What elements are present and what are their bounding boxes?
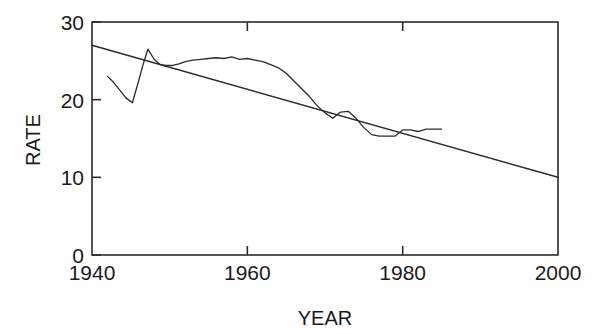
x-tick-label-1940: 1940: [69, 261, 116, 284]
y-tick-label-10: 10: [61, 166, 84, 189]
x-axis-tick-labels: 1940196019802000: [69, 261, 582, 284]
y-axis-tick-labels: 0102030: [61, 11, 84, 267]
trend-line: [92, 45, 558, 177]
x-axis-title: YEAR: [298, 307, 352, 329]
x-axis-ticks: [247, 22, 402, 255]
x-tick-label-1980: 1980: [379, 261, 426, 284]
y-axis-title: RATE: [22, 114, 44, 166]
y-axis-ticks: [92, 22, 101, 255]
data-series-rate-line: [108, 49, 442, 136]
y-tick-label-30: 30: [61, 11, 84, 34]
x-tick-label-2000: 2000: [535, 261, 582, 284]
x-tick-label-1960: 1960: [224, 261, 271, 284]
plot-frame: [92, 22, 558, 255]
y-tick-label-20: 20: [61, 89, 84, 112]
chart-svg: 0102030 1940196019802000 RATE YEAR: [0, 0, 612, 334]
